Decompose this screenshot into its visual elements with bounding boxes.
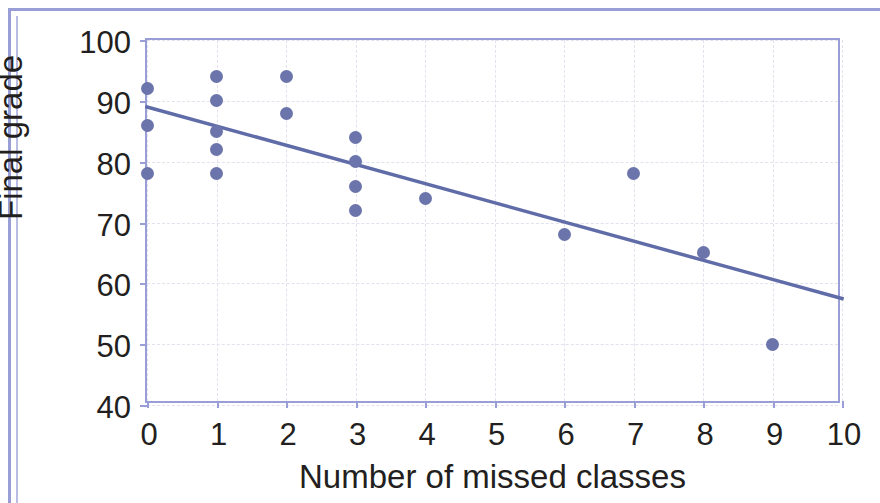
data-point — [210, 143, 223, 156]
data-point — [210, 94, 223, 107]
x-tick-mark: 1 — [217, 401, 219, 408]
gridline-vertical — [703, 40, 704, 401]
y-tick-mark: 90 — [140, 101, 147, 103]
y-tick-label: 100 — [79, 27, 131, 58]
gridline-vertical — [842, 40, 843, 401]
x-tick-mark: 9 — [773, 401, 775, 408]
x-tick-label: 10 — [827, 419, 861, 450]
data-point — [558, 228, 571, 241]
x-tick-label: 3 — [349, 419, 366, 450]
x-tick-label: 2 — [279, 419, 296, 450]
plot-area: 405060708090100 012345678910 — [145, 38, 840, 403]
data-point — [141, 167, 154, 180]
gridline-horizontal — [147, 101, 838, 102]
gridline-vertical — [495, 40, 496, 401]
data-point — [627, 167, 640, 180]
x-tick-label: 9 — [766, 419, 783, 450]
x-tick-mark: 5 — [495, 401, 497, 408]
data-point — [141, 82, 154, 95]
data-point — [210, 70, 223, 83]
gridline-vertical — [564, 40, 565, 401]
x-tick-label: 8 — [696, 419, 713, 450]
x-tick-mark: 8 — [703, 401, 705, 408]
x-tick-mark: 10 — [842, 401, 844, 408]
data-point — [349, 204, 362, 217]
data-point — [349, 131, 362, 144]
x-tick-label: 1 — [210, 419, 227, 450]
data-point — [210, 125, 223, 138]
gridline-horizontal — [147, 40, 838, 41]
x-axis-title: Number of missed classes — [145, 460, 840, 493]
x-tick-label: 4 — [418, 419, 435, 450]
y-tick-label: 60 — [97, 270, 131, 301]
y-tick-label: 40 — [97, 392, 131, 423]
gridline-vertical — [634, 40, 635, 401]
data-point — [349, 180, 362, 193]
y-tick-label: 90 — [97, 87, 131, 118]
y-tick-mark: 70 — [140, 223, 147, 225]
gridline-horizontal — [147, 162, 838, 163]
y-tick-label: 50 — [97, 331, 131, 362]
data-point — [419, 192, 432, 205]
y-axis-title: Final grade — [0, 55, 27, 220]
scatter-chart: 405060708090100 012345678910 Final grade… — [0, 0, 880, 503]
gridline-horizontal — [147, 344, 838, 345]
x-tick-mark: 0 — [147, 401, 149, 408]
x-tick-mark: 2 — [286, 401, 288, 408]
chart-screenshot: 405060708090100 012345678910 Final grade… — [0, 0, 880, 503]
trendline — [147, 40, 838, 401]
data-point — [210, 167, 223, 180]
data-point — [280, 107, 293, 120]
gridline-vertical — [425, 40, 426, 401]
gridline-vertical — [356, 40, 357, 401]
x-tick-label: 0 — [140, 419, 157, 450]
x-tick-label: 5 — [488, 419, 505, 450]
data-point — [766, 338, 779, 351]
y-tick-mark: 80 — [140, 162, 147, 164]
y-tick-mark: 50 — [140, 344, 147, 346]
data-point — [280, 70, 293, 83]
gridline-horizontal — [147, 405, 838, 406]
y-tick-label: 80 — [97, 148, 131, 179]
x-tick-mark: 6 — [564, 401, 566, 408]
y-tick-mark: 60 — [140, 283, 147, 285]
gridline-horizontal — [147, 283, 838, 284]
gridline-vertical — [286, 40, 287, 401]
y-tick-label: 70 — [97, 209, 131, 240]
x-tick-label: 7 — [627, 419, 644, 450]
data-point — [697, 246, 710, 259]
y-tick-mark: 40 — [140, 405, 147, 407]
data-point — [141, 119, 154, 132]
x-tick-mark: 3 — [356, 401, 358, 408]
x-tick-mark: 7 — [634, 401, 636, 408]
x-tick-mark: 4 — [425, 401, 427, 408]
x-tick-label: 6 — [557, 419, 574, 450]
data-point — [349, 155, 362, 168]
gridline-horizontal — [147, 223, 838, 224]
y-tick-mark: 100 — [140, 40, 147, 42]
